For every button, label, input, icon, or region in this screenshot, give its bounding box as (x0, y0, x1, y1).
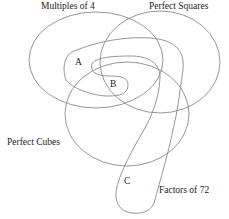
perfect-cubes-set (65, 62, 189, 166)
region-b-label: B (110, 80, 116, 90)
region-a-label: A (75, 58, 82, 68)
factors-of-72-label: Factors of 72 (159, 186, 209, 196)
perfect-squares-set (100, 11, 220, 113)
region-c-label: C (124, 177, 130, 187)
perfect-squares-label: Perfect Squares (149, 2, 208, 12)
multiples-of-4-label: Multiples of 4 (41, 2, 95, 12)
venn-diagram: Multiples of 4 Perfect Squares Perfect C… (0, 0, 229, 219)
perfect-cubes-label: Perfect Cubes (7, 138, 60, 148)
